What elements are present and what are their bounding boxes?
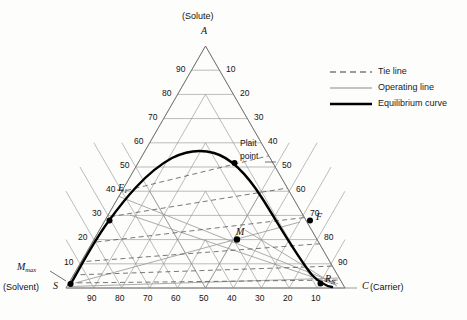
left-tick-90: 90: [176, 65, 185, 74]
label-rn: RN: [325, 274, 335, 285]
bottom-tick-80: 80: [115, 294, 124, 303]
label-m-max: Mmax: [17, 262, 36, 273]
right-tick-30: 30: [254, 113, 263, 122]
right-tick-60: 60: [296, 185, 305, 194]
legend-symbols: [330, 72, 372, 104]
bottom-tick-20: 20: [283, 294, 292, 303]
label-m: M: [236, 227, 244, 237]
operating-line-2: [70, 278, 340, 287]
carrier-label: (Carrier): [370, 283, 404, 292]
point-m-max: [68, 281, 74, 287]
bottom-tick-70: 70: [143, 294, 152, 303]
point-m: [234, 236, 240, 242]
bottom-tick-60: 60: [171, 294, 180, 303]
label-f: F: [316, 212, 322, 222]
left-tick-40: 40: [106, 185, 115, 194]
operating-line-3: [118, 196, 338, 284]
right-tick-80: 80: [324, 233, 333, 242]
bottom-tick-30: 30: [255, 294, 264, 303]
bottom-tick-50: 50: [199, 294, 208, 303]
solvent-label: (Solvent): [3, 283, 39, 292]
carrier-symbol: C: [362, 281, 369, 291]
label-plait-point-line2: point: [240, 152, 258, 161]
point-plait: [232, 160, 238, 166]
left-tick-80: 80: [162, 89, 171, 98]
right-tick-40: 40: [268, 137, 277, 146]
solvent-symbol: S: [53, 281, 58, 291]
grid-lines: [66, 46, 345, 288]
bottom-tick-10: 10: [311, 294, 320, 303]
left-tick-20: 20: [78, 233, 87, 242]
point-f: [307, 218, 313, 224]
right-tick-20: 20: [240, 89, 249, 98]
diagram-canvas: [0, 0, 467, 320]
apex-label: (Solute): [182, 12, 214, 21]
left-tick-50: 50: [120, 161, 129, 170]
legend-label-tie-line: Tie line: [378, 67, 407, 76]
right-tick-10: 10: [226, 65, 235, 74]
left-tick-10: 10: [64, 258, 73, 267]
point-e1: [107, 218, 113, 224]
apex-symbol: A: [201, 26, 207, 36]
left-tick-30: 30: [92, 209, 101, 218]
point-rn: [318, 281, 324, 287]
right-tick-90: 90: [338, 258, 347, 267]
label-plait-point-line1: Plait: [240, 139, 257, 148]
bottom-tick-40: 40: [227, 294, 236, 303]
left-tick-70: 70: [148, 113, 157, 122]
left-tick-60: 60: [134, 137, 143, 146]
legend-label-operating-line: Operating line: [378, 83, 434, 92]
legend-label-equilibrium-curve: Equilibrium curve: [378, 99, 447, 108]
right-tick-50: 50: [282, 161, 291, 170]
label-e1: E1: [118, 183, 127, 194]
ternary-phase-diagram-figure: (Solute) A (Solvent) S C (Carrier) 90 80…: [0, 0, 467, 320]
bottom-tick-90: 90: [87, 294, 96, 303]
